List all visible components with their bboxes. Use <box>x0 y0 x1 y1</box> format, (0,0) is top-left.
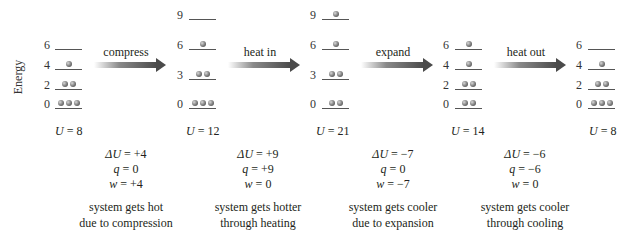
particle-icon <box>66 100 72 106</box>
work-w-row: w = 0 <box>480 177 570 192</box>
work-w-value: = +4 <box>120 177 143 191</box>
heat-q-row: q = −6 <box>480 162 570 177</box>
energy-level-line <box>55 108 82 109</box>
energy-level-line <box>588 69 615 70</box>
energy-level-line <box>455 49 482 50</box>
energy-level-line <box>189 79 216 80</box>
internal-energy-label: U = 8 <box>589 124 616 139</box>
work-w-row: w = −7 <box>348 177 438 192</box>
arrow-shaft <box>94 62 157 68</box>
work-w-value: = 0 <box>256 177 272 191</box>
thermo-values: ΔU = +9q = +9w = 0 <box>213 147 303 192</box>
energy-level-line <box>55 69 82 70</box>
energy-level-value: 2 <box>435 79 449 91</box>
description-line: due to expansion <box>328 215 458 231</box>
process-arrow-icon <box>94 59 166 71</box>
process-label: compress <box>86 45 166 60</box>
energy-level-line <box>55 49 82 50</box>
energy-level-line <box>588 89 615 90</box>
energy-level-value: 3 <box>302 69 316 81</box>
arrow-head-icon <box>556 58 566 72</box>
particle-icon <box>200 100 206 106</box>
particle-icon <box>58 100 64 106</box>
delta-u-symbol: ΔU <box>372 147 388 161</box>
particle-icon <box>192 100 198 106</box>
particle-icon <box>333 11 339 17</box>
energy-level-line <box>55 89 82 90</box>
particle-icon <box>599 61 605 67</box>
particle-icon <box>329 71 335 77</box>
delta-u-row: ΔU = +9 <box>213 147 303 162</box>
work-w-row: w = +4 <box>81 177 171 192</box>
arrow-head-icon <box>290 58 300 72</box>
energy-level-value: 2 <box>36 79 50 91</box>
particle-icon <box>333 41 339 47</box>
particle-icon <box>329 100 335 106</box>
internal-energy-value: = 12 <box>198 124 220 138</box>
energy-level-value: 0 <box>36 98 50 110</box>
process-label: heat in <box>220 45 300 60</box>
energy-level-line <box>588 108 615 109</box>
internal-energy-symbol: U <box>55 124 64 138</box>
particle-icon <box>591 100 597 106</box>
work-w-symbol: w <box>376 177 384 191</box>
work-w-symbol: w <box>512 177 520 191</box>
process-arrow-icon <box>228 59 300 71</box>
energy-level-value: 6 <box>568 39 582 51</box>
description-line: system gets cooler <box>328 199 458 215</box>
energy-level-line <box>189 108 216 109</box>
energy-level-value: 0 <box>169 98 183 110</box>
arrow-shaft <box>361 62 424 68</box>
internal-energy-label: U = 21 <box>316 124 349 139</box>
particle-icon <box>74 100 80 106</box>
delta-u-value: = −6 <box>523 147 546 161</box>
description-line: system gets hotter <box>193 199 323 215</box>
heat-q-value: = 0 <box>390 162 406 176</box>
internal-energy-label: U = 14 <box>451 124 484 139</box>
energy-axis-label: Energy <box>11 57 25 97</box>
process-label: expand <box>353 45 433 60</box>
energy-level-value: 0 <box>568 98 582 110</box>
energy-level-line <box>588 49 615 50</box>
energy-level-line <box>189 49 216 50</box>
internal-energy-symbol: U <box>316 124 325 138</box>
internal-energy-label: U = 8 <box>55 124 82 139</box>
process-description: system gets coolerthrough cooling <box>460 199 590 231</box>
work-w-value: = 0 <box>523 177 539 191</box>
heat-q-symbol: q <box>509 162 515 176</box>
energy-level-line <box>455 108 482 109</box>
thermo-values: ΔU = −6q = −6w = 0 <box>480 147 570 192</box>
internal-energy-symbol: U <box>186 124 195 138</box>
energy-level-value: 6 <box>435 39 449 51</box>
work-w-value: = −7 <box>387 177 410 191</box>
heat-q-row: q = +9 <box>213 162 303 177</box>
description-line: due to compression <box>61 215 191 231</box>
energy-level-value: 6 <box>36 39 50 51</box>
work-w-symbol: w <box>109 177 117 191</box>
particle-icon <box>337 100 343 106</box>
particle-icon <box>70 81 76 87</box>
energy-level-value: 6 <box>302 39 316 51</box>
energy-level-value: 9 <box>169 9 183 21</box>
delta-u-row: ΔU = −7 <box>348 147 438 162</box>
energy-level-value: 0 <box>435 98 449 110</box>
particle-icon <box>462 100 468 106</box>
particle-icon <box>208 100 214 106</box>
delta-u-row: ΔU = −6 <box>480 147 570 162</box>
delta-u-symbol: ΔU <box>237 147 253 161</box>
heat-q-value: = 0 <box>123 162 139 176</box>
energy-level-value: 4 <box>568 59 582 71</box>
internal-energy-value: = 21 <box>328 124 350 138</box>
internal-energy-symbol: U <box>589 124 598 138</box>
thermo-values: ΔU = −7q = 0w = −7 <box>348 147 438 192</box>
delta-u-value: = +9 <box>256 147 279 161</box>
energy-level-line <box>322 19 349 20</box>
particle-icon <box>603 81 609 87</box>
arrow-head-icon <box>156 58 166 72</box>
delta-u-value: = −7 <box>391 147 414 161</box>
internal-energy-value: = 8 <box>67 124 83 138</box>
energy-level-value: 2 <box>568 79 582 91</box>
particle-icon <box>466 61 472 67</box>
description-line: system gets hot <box>61 199 191 215</box>
process-description: system gets coolerdue to expansion <box>328 199 458 231</box>
